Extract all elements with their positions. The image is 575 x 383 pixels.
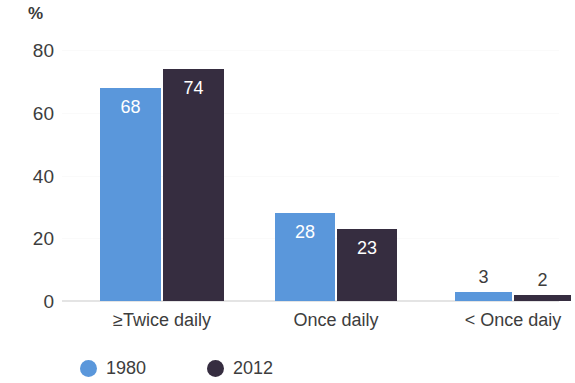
x-axis-category-labels: ≥Twice dailyOnce daily< Once daiy (0, 310, 559, 340)
y-axis-tick-label: 20 (8, 229, 54, 248)
legend-swatch-icon (80, 360, 97, 377)
y-axis-tick-label: 60 (8, 104, 54, 123)
legend-label: 2012 (233, 358, 273, 379)
bar-value-label: 28 (275, 223, 335, 241)
gridline (62, 50, 559, 51)
bar-value-label: 2 (514, 271, 571, 289)
bar-value-label: 74 (163, 79, 224, 97)
bar-value-label: 68 (100, 98, 161, 116)
bar-2012-2[interactable] (514, 295, 571, 301)
x-axis-label-2: < Once daiy (403, 310, 575, 331)
bar-value-label: 23 (337, 239, 397, 257)
plot-area: 6874282332 (62, 50, 559, 301)
legend-swatch-icon (207, 360, 224, 377)
chart-legend: 19802012 (0, 356, 559, 383)
y-axis-tick-label: 40 (8, 167, 54, 186)
y-axis-tick-labels: 020406080 (0, 50, 54, 301)
y-axis-unit-label: % (28, 4, 43, 24)
legend-label: 1980 (106, 358, 146, 379)
legend-item-1980[interactable]: 1980 (80, 356, 146, 380)
y-axis-tick-label: 0 (8, 292, 54, 311)
bar-2012-0[interactable] (163, 69, 224, 301)
y-axis-tick-label: 80 (8, 41, 54, 60)
bar-1980-2[interactable] (455, 292, 512, 301)
bar-1980-0[interactable] (100, 88, 161, 301)
legend-item-2012[interactable]: 2012 (207, 356, 273, 380)
bar-value-label: 3 (455, 268, 512, 286)
